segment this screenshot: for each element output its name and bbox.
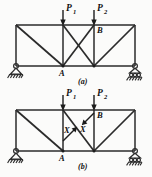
load-label-p1-a: P [66,3,72,13]
diagonal-a-panel1 [16,25,63,66]
truss-figure-svg: P 1 P 2 A B [0,0,152,177]
joint-label-A-b: A [58,153,65,163]
caption-a: (a) [78,77,88,86]
panel-a: P 1 P 2 A B [8,3,142,86]
force-label-x-upper: X [79,124,86,134]
load-label-p2-a: P [97,3,103,13]
load-arrow-p1-a [60,10,65,26]
joint-label-A-a: A [58,68,65,78]
diagonal-b-panel1 [16,110,63,151]
load-label-p2-b-sub: 2 [103,93,108,100]
load-arrow-p2-a [91,10,96,26]
joint-a-B-bottom [93,65,96,68]
joint-label-B-a: B [96,25,103,35]
load-label-p2-a-sub: 2 [103,8,108,15]
panel-b: P 1 P 2 X X A B [8,88,142,171]
figure-container: P 1 P 2 A B [0,0,152,177]
load-label-p1-b-sub: 1 [73,93,76,100]
load-label-p2-b: P [97,88,103,98]
joint-label-B-b: B [96,110,103,120]
caption-b: (b) [78,162,88,171]
joint-b-B-bottom [93,150,96,153]
load-arrow-p1-b [60,95,65,111]
force-label-x-lower: X [63,125,70,135]
load-arrow-p2-b [91,95,96,111]
load-label-p1-b: P [66,88,72,98]
load-label-p1-a-sub: 1 [73,8,76,15]
